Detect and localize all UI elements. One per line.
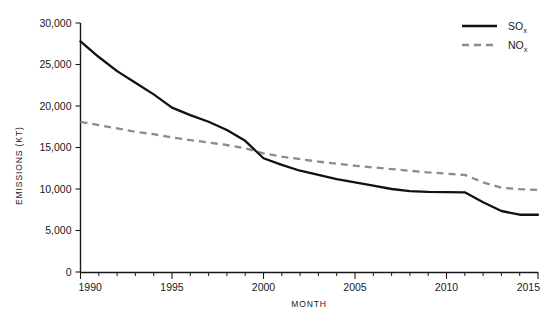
x-tick-label: 1990: [79, 281, 103, 293]
x-tick-label: 2015: [517, 281, 541, 293]
legend-label-sox: SOx: [508, 20, 527, 35]
series-line-nox: [81, 122, 539, 190]
y-axis-title: EMISSIONS (KT): [14, 126, 24, 205]
y-tick-label: 25,000: [39, 58, 71, 70]
y-tick-label: 20,000: [39, 100, 71, 112]
y-tick-label: 30,000: [39, 17, 71, 29]
y-axis-group: 05,00010,00015,00020,00025,00030,000 EMI…: [14, 17, 81, 278]
y-tick-label: 10,000: [39, 183, 71, 195]
y-tick-labels: 05,00010,00015,00020,00025,00030,000: [39, 17, 71, 278]
x-tick-label: 1995: [160, 281, 184, 293]
legend: SOx NOx: [462, 20, 528, 54]
x-tick-label: 2010: [435, 281, 459, 293]
emissions-line-chart: 05,00010,00015,00020,00025,00030,000 EMI…: [0, 0, 558, 320]
x-axis-group: 199019952000200520102015 MONTH: [79, 272, 541, 309]
data-series-group: [81, 41, 539, 214]
y-tick-label: 0: [66, 266, 72, 278]
legend-label-nox: NOx: [508, 39, 528, 54]
y-tick-label: 15,000: [39, 141, 71, 153]
x-tick-labels: 199019952000200520102015: [79, 281, 541, 293]
chart-canvas: 05,00010,00015,00020,00025,00030,000 EMI…: [0, 0, 558, 320]
x-tick-label: 2005: [343, 281, 367, 293]
x-axis-title: MONTH: [291, 299, 327, 309]
series-line-sox: [81, 41, 539, 214]
y-tick-label: 5,000: [45, 224, 71, 236]
y-tick-marks: [76, 23, 81, 272]
x-tick-label: 2000: [252, 281, 276, 293]
